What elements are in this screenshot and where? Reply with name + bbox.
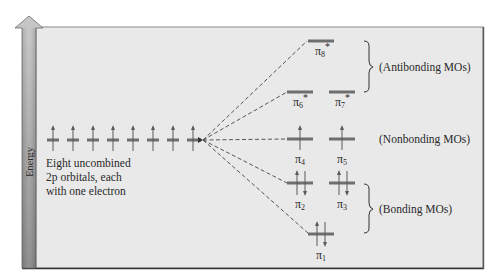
bonding-label: (Bonding MOs) — [379, 203, 452, 216]
energy-axis-label: Energy — [24, 146, 35, 177]
atomic-orbitals-caption: Eight uncombined 2p orbitals, each with … — [46, 157, 134, 197]
nonbonding-label: (Nonbonding MOs) — [379, 133, 470, 146]
caption-line-1: Eight uncombined — [46, 157, 131, 170]
antibonding-label: (Antibonding MOs) — [379, 61, 471, 74]
mo-diagram: Energy Eight uncombined 2p orbitals, eac… — [0, 0, 497, 279]
caption-line-3: with one electron — [46, 185, 126, 197]
caption-line-2: 2p orbitals, each — [46, 171, 122, 184]
